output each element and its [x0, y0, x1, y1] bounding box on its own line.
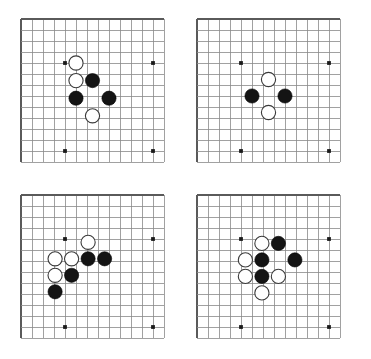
black-stone[interactable] — [245, 89, 259, 103]
black-stone[interactable] — [65, 268, 79, 282]
white-stone[interactable] — [255, 236, 269, 250]
stone-layer — [238, 236, 302, 300]
star-point — [63, 61, 67, 65]
star-point — [151, 325, 155, 329]
white-stone[interactable] — [48, 268, 62, 282]
board-grid — [21, 19, 164, 162]
stone-layer — [48, 235, 112, 299]
white-stone[interactable] — [69, 74, 83, 88]
star-point — [327, 237, 331, 241]
board-grid — [21, 195, 164, 338]
panel-bottom-right — [176, 176, 352, 352]
white-stone[interactable] — [81, 235, 95, 249]
go-diagram-grid — [0, 0, 371, 359]
star-point — [63, 325, 67, 329]
white-stone[interactable] — [69, 56, 83, 70]
board-grid — [197, 195, 340, 338]
black-stone[interactable] — [255, 253, 269, 267]
star-point — [63, 237, 67, 241]
star-point — [151, 149, 155, 153]
star-point — [239, 61, 243, 65]
white-stone[interactable] — [255, 286, 269, 300]
black-stone[interactable] — [69, 91, 83, 105]
star-point — [151, 237, 155, 241]
black-stone[interactable] — [48, 285, 62, 299]
black-stone[interactable] — [278, 89, 292, 103]
white-stone[interactable] — [261, 105, 275, 119]
star-point — [239, 149, 243, 153]
black-stone[interactable] — [81, 252, 95, 266]
white-stone[interactable] — [271, 269, 285, 283]
white-stone[interactable] — [65, 252, 79, 266]
white-stone[interactable] — [261, 72, 275, 86]
panel-bottom-left — [0, 176, 176, 352]
white-stone[interactable] — [238, 269, 252, 283]
black-stone[interactable] — [288, 253, 302, 267]
black-stone[interactable] — [85, 74, 99, 88]
white-stone[interactable] — [48, 252, 62, 266]
star-point — [239, 325, 243, 329]
panel-top-right — [176, 0, 352, 176]
black-stone[interactable] — [255, 269, 269, 283]
star-point — [63, 149, 67, 153]
black-stone[interactable] — [98, 252, 112, 266]
star-point — [327, 149, 331, 153]
black-stone[interactable] — [271, 236, 285, 250]
white-stone[interactable] — [238, 253, 252, 267]
panel-top-left — [0, 0, 176, 176]
white-stone[interactable] — [85, 109, 99, 123]
star-point — [327, 61, 331, 65]
black-stone[interactable] — [102, 91, 116, 105]
star-point — [239, 237, 243, 241]
board-grid — [197, 19, 340, 162]
star-point — [151, 61, 155, 65]
star-point — [327, 325, 331, 329]
